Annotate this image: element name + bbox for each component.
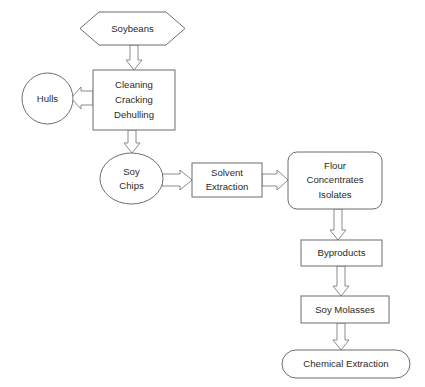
node-soychips-label-line1: Soy [123,166,140,177]
node-flour-label-line2: Concentrates [306,174,363,185]
arrow-soychips-to-solvent [162,170,192,190]
node-cleaning-label-line3: Dehulling [114,109,154,120]
node-flour-label-line3: Isolates [318,189,351,200]
flowchart-canvas: Soybeans Cleaning Cracking Dehulling Hul… [0,0,425,387]
node-soybeans-label: Soybeans [111,23,154,34]
node-flour-label-line1: Flour [324,160,347,171]
node-cleaning-label-line2: Cracking [115,94,153,105]
arrow-cleaning-to-hulls [71,87,93,109]
arrow-cleaning-to-soychips [124,130,140,153]
arrow-solvent-to-flour [262,170,288,190]
node-solvent-extraction-label-line1: Solvent [211,167,243,178]
arrow-flour-to-byproducts [330,209,346,240]
node-soychips[interactable] [100,153,163,204]
node-chemical-extraction-label: Chemical Extraction [303,358,388,369]
node-solvent-extraction-label-line2: Extraction [206,181,249,192]
node-byproducts-label: Byproducts [318,247,366,258]
node-cleaning-label-line1: Cleaning [115,79,153,90]
arrow-soybeans-to-cleaning [126,45,142,70]
flowchart-svg: Soybeans Cleaning Cracking Dehulling Hul… [0,0,425,387]
arrow-byproducts-to-molasses [333,266,349,296]
node-soychips-label-line2: Chips [119,180,144,191]
arrow-molasses-to-chemical [333,323,349,350]
node-hulls-label: Hulls [37,93,59,104]
node-soy-molasses-label: Soy Molasses [315,304,375,315]
